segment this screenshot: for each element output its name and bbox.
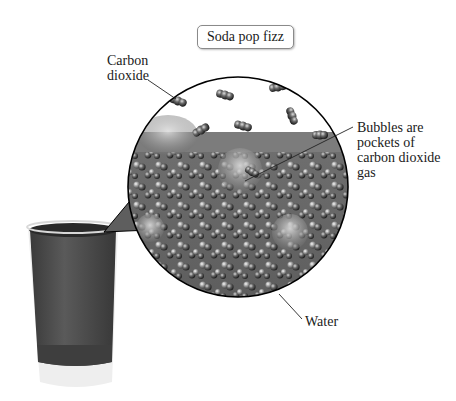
magnified-view <box>120 70 360 312</box>
water-label: Water <box>305 314 338 329</box>
bubble <box>272 214 308 250</box>
carbon-dioxide-label: Carbon dioxide <box>107 53 167 83</box>
bubble <box>138 115 198 155</box>
glass <box>27 221 119 387</box>
diagram-title: Soda pop fizz <box>197 25 294 49</box>
bubbles-label: Bubbles are pockets of carbon dioxide ga… <box>357 120 449 180</box>
water-leader-line <box>279 294 302 319</box>
soda-fizz-illustration <box>0 0 456 401</box>
